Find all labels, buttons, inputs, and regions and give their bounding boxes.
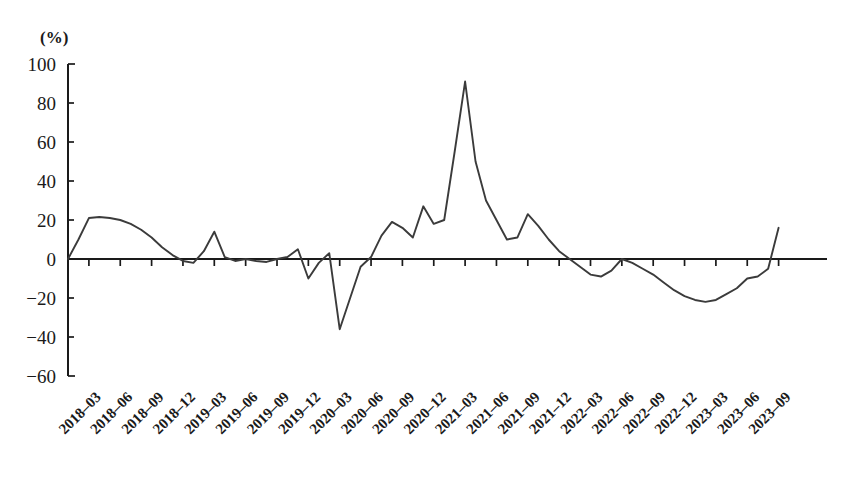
y-axis-tick-label: −60 <box>26 366 56 387</box>
y-axis-tick-label: 40 <box>37 171 56 192</box>
y-axis-tick-label: 100 <box>28 54 57 75</box>
line-chart: (%) 100806040200−20−40−60 2018–032018–06… <box>0 0 853 491</box>
y-axis-tick-label: −20 <box>26 288 56 309</box>
y-axis-unit-label: (%) <box>40 28 68 48</box>
y-axis-tick-label: 60 <box>37 132 56 153</box>
axis-lines <box>68 64 827 376</box>
y-axis-tick-label: 0 <box>47 249 57 270</box>
x-axis-tick-labels: 2018–032018–062018–092018–122019–032019–… <box>56 388 794 437</box>
data-series-line <box>68 82 779 330</box>
y-axis-tick-label: 80 <box>37 93 56 114</box>
plot-area: 100806040200−20−40−60 2018–032018–062018… <box>0 0 853 491</box>
y-axis-tick-label: −40 <box>26 327 56 348</box>
y-axis-tick-label: 20 <box>37 210 56 231</box>
y-axis-tick-labels: 100806040200−20−40−60 <box>26 54 56 387</box>
